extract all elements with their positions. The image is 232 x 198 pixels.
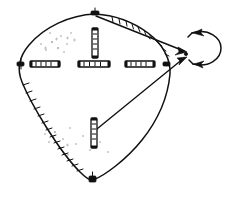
lower-left-hatch bbox=[23, 83, 83, 171]
rotation-arrowhead-top bbox=[193, 29, 204, 36]
bar-center bbox=[78, 61, 110, 67]
leader-lower-arrowhead bbox=[177, 57, 187, 65]
leader-upper bbox=[96, 16, 184, 51]
bar-upper-vertical bbox=[92, 28, 98, 58]
apex-vertex bbox=[184, 52, 187, 55]
leader-lines bbox=[92, 16, 187, 133]
bar-right-outer bbox=[125, 61, 155, 67]
figure-root: Hand-drawn teardrop outline with segment… bbox=[0, 0, 232, 198]
upper-right-hatch bbox=[112, 17, 169, 56]
pin-left bbox=[17, 59, 24, 69]
rotation-arrow bbox=[188, 29, 221, 68]
pin-top bbox=[91, 8, 99, 15]
bar-lower-vertical bbox=[91, 118, 97, 148]
leader-lower bbox=[92, 58, 184, 133]
rotation-tail-bottom bbox=[189, 60, 193, 64]
pin-bottom bbox=[89, 172, 96, 182]
bar-left-outer bbox=[30, 61, 60, 67]
diagram-canvas bbox=[0, 0, 232, 198]
pin-right bbox=[163, 62, 170, 66]
rotation-tail-top bbox=[188, 33, 192, 37]
